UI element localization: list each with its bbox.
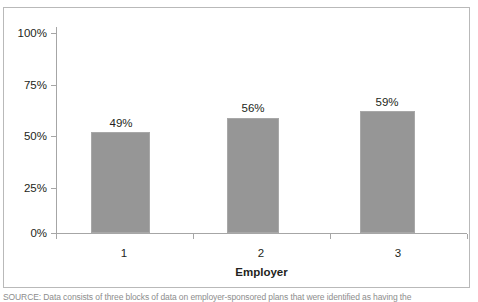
x-axis-title: Employer [56,267,467,279]
x-tick-mark-3 [467,234,468,239]
x-axis-label-employer-3: 3 [368,248,428,260]
bar-employer-1 [91,132,150,233]
bar-employer-3 [360,111,415,233]
x-tick-mark-1 [193,234,194,239]
x-axis-line [56,233,467,234]
x-axis-label-employer-1: 1 [94,248,154,260]
bar-value-label-2: 56% [223,103,283,115]
bar-value-label-3: 59% [357,97,417,109]
chart-figure-frame: 100% 75% 50% 25% 0% 49% 56% 59% 1 2 3 Em… [3,7,470,288]
y-tick-label-75: 75% [0,80,47,92]
y-tick-label-0: 0% [0,228,47,240]
x-tick-mark-0 [56,234,57,239]
y-tick-label-50: 50% [0,131,47,143]
x-axis-label-employer-2: 2 [231,248,291,260]
bar-value-label-1: 49% [91,118,151,130]
x-tick-mark-2 [330,234,331,239]
plot-area [56,27,412,233]
source-caption: SOURCE: Data consists of three blocks of… [3,293,473,302]
bar-employer-2 [227,118,279,233]
y-tick-label-25: 25% [0,183,47,195]
y-tick-label-100: 100% [0,28,47,40]
